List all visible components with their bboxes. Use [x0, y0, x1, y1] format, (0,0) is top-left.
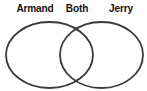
left-circle: [6, 22, 93, 88]
venn-diagram: Armand Both Jerry: [0, 0, 147, 91]
venn-circles: [0, 0, 147, 91]
right-circle: [60, 22, 143, 88]
